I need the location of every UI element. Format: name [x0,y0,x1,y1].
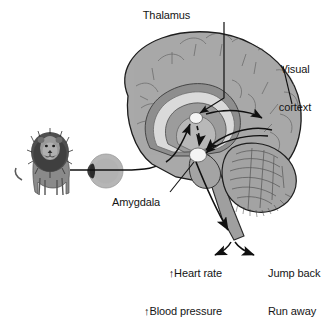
label-blood-pressure: ↑Blood pressure [130,305,222,318]
label-heart-rate: ↑Heart rate [130,267,222,280]
label-run-away: Run away [268,305,332,318]
eye-icon [87,154,123,188]
thalamus-node [190,113,203,124]
label-amygdala: Amygdala [86,196,186,209]
label-behavioral-response: Jump back Run away [268,242,332,321]
label-jump-back: Jump back [268,267,332,280]
label-visual-cortex: Visual cortext [262,38,328,138]
output-branch-right-arrow [235,242,254,255]
label-autonomic-response: ↑Heart rate ↑Blood pressure [130,242,222,321]
amygdala-node [190,148,207,162]
label-visual-cortex-line1: Visual [262,63,328,76]
lion-stimulus-icon [15,128,73,195]
label-visual-cortex-line2: cortext [262,101,328,114]
label-thalamus: Thalamus [0,9,333,22]
